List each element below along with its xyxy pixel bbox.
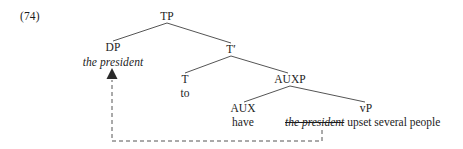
node-vp: vP (360, 102, 372, 115)
terminal-vp-string: the president upset several people (285, 116, 440, 129)
branch-tp-tbar (167, 23, 231, 43)
node-tp: TP (160, 10, 174, 23)
figure-canvas: (74) TP DP T′ T AUXP AUX vP the presiden… (0, 0, 463, 149)
node-t: T (181, 73, 188, 86)
branch-tbar-t (185, 56, 231, 73)
node-t-bar: T′ (226, 43, 236, 56)
branch-tbar-auxp (231, 56, 288, 73)
movement-arrowhead (107, 68, 118, 79)
terminal-aux-head: have (232, 116, 254, 129)
branch-auxp-aux (244, 86, 290, 102)
terminal-dp-specifier: the president (83, 56, 144, 69)
terminal-vp-trace: the president (285, 116, 344, 128)
movement-arrow-path (112, 80, 322, 141)
branch-auxp-vp (290, 86, 365, 102)
node-dp: DP (106, 41, 121, 54)
branch-tp-dp (113, 23, 167, 41)
terminal-t-head: to (180, 87, 189, 100)
node-auxp: AUXP (274, 73, 306, 86)
node-aux: AUX (230, 102, 255, 115)
terminal-vp-predicate: upset several people (344, 116, 440, 128)
